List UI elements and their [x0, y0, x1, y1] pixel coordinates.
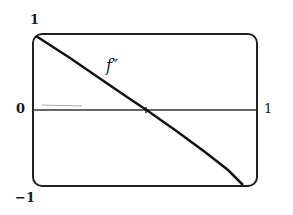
- chart-canvas: [0, 0, 293, 215]
- y-label-top: 1: [30, 12, 39, 27]
- x-label-right: 1: [264, 101, 272, 116]
- curve-label: f″: [106, 56, 118, 75]
- y-label-bottom: −1: [15, 190, 35, 205]
- pencil-mark: [42, 105, 82, 106]
- y-label-zero: 0: [16, 101, 25, 116]
